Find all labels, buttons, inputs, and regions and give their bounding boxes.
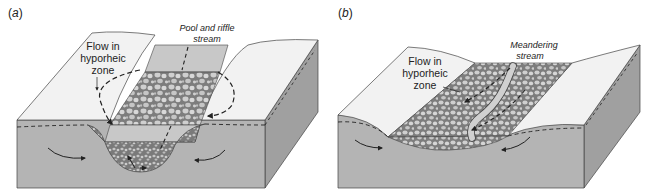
upstream-pool xyxy=(145,45,228,72)
panel-a-pool-riffle-diagram: (a) xyxy=(0,0,330,195)
stream-label-line2: stream xyxy=(516,51,544,61)
flow-label-line3: zone xyxy=(414,79,437,91)
stream-label-line2: stream xyxy=(193,34,221,44)
flow-label-line1: Flow in xyxy=(86,40,119,52)
flow-label-line1: Flow in xyxy=(408,55,441,67)
stream-label-line1: Pool and riffle xyxy=(179,23,234,33)
stream-label-line1: Meandering xyxy=(510,40,558,50)
panel-b-meandering-diagram: (b) xyxy=(330,0,656,195)
flow-label-line3: zone xyxy=(92,64,115,76)
meandering-block-diagram: Flow in hyporheic zone Meandering stream xyxy=(330,0,656,195)
pool-riffle-block-diagram: Flow in hyporheic zone Pool and riffle s… xyxy=(0,0,330,195)
flow-label-line2: hyporheic xyxy=(80,52,126,64)
flow-label-line2: hyporheic xyxy=(402,67,448,79)
